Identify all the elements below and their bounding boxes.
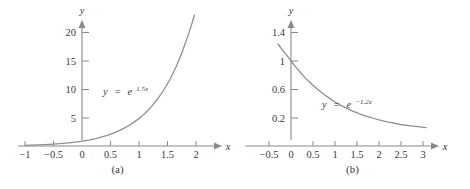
y-tick-label-a-1: 10 [66, 84, 77, 95]
x-tick-label-b-1: 0 [288, 149, 293, 160]
x-tick-label-b-5: 2 [376, 149, 381, 160]
x-axis-label-a: x [225, 141, 231, 152]
y-tick-label-b-2: 1 [280, 56, 285, 67]
y-axis-label-a: y [79, 5, 85, 16]
equation-text-a: y = e 1.5x [102, 81, 149, 98]
x-tick-label-b-7: 3 [420, 149, 425, 160]
y-tick-label-a-2: 15 [66, 56, 77, 67]
x-tick-label-a-5: 1.5 [161, 149, 174, 160]
x-tick-label-a-6: 2 [193, 149, 198, 160]
x-tick-label-a-1: −0.5 [44, 149, 63, 160]
equation-operator-b: = [334, 99, 340, 110]
equation-text-b: y = e −1.2x [321, 94, 373, 111]
panel-b: −0.5 0 0.5 1 1.5 2 2.5 3 0.2 0.6 1 1.4 x… [235, 0, 470, 189]
equation-base-a: e [128, 86, 133, 97]
x-axis-arrow-a [214, 143, 222, 150]
equation-label-b: y = e −1.2x [321, 94, 373, 111]
x-tick-label-a-4: 1 [136, 149, 141, 160]
x-tick-label-a-2: 0 [79, 149, 84, 160]
x-axis-label-b: x [442, 141, 448, 152]
x-tick-label-b-2: 0.5 [306, 149, 319, 160]
x-tick-label-b-6: 2.5 [394, 149, 407, 160]
y-axis-arrow-b [288, 20, 295, 28]
figure-container: −1 −0.5 0 0.5 1 1.5 2 5 10 15 20 x y y =… [0, 0, 470, 189]
equation-exponent-a: 1.5x [136, 85, 149, 93]
equation-lhs-b: y [321, 99, 327, 110]
x-axis-arrow-b [431, 143, 439, 150]
equation-operator-a: = [115, 86, 121, 97]
plot-b: −0.5 0 0.5 1 1.5 2 2.5 3 0.2 0.6 1 1.4 x… [235, 0, 470, 170]
y-axis-arrow-a [79, 20, 86, 28]
equation-lhs-a: y [102, 86, 108, 97]
plot-a: −1 −0.5 0 0.5 1 1.5 2 5 10 15 20 x y y =… [0, 0, 235, 170]
x-tick-label-b-4: 1.5 [350, 149, 363, 160]
x-tick-label-b-0: −0.5 [259, 149, 278, 160]
caption-b: (b) [235, 163, 470, 175]
y-tick-label-b-0: 0.2 [272, 113, 285, 124]
y-axis-label-b: y [288, 5, 294, 16]
y-tick-label-b-3: 1.4 [272, 27, 286, 38]
y-tick-label-b-1: 0.6 [272, 84, 285, 95]
y-tick-label-a-0: 5 [71, 113, 76, 124]
x-tick-label-a-3: 0.5 [104, 149, 117, 160]
equation-exponent-b: −1.2x [355, 98, 372, 106]
caption-a: (a) [0, 163, 235, 175]
y-tick-label-a-3: 20 [66, 27, 77, 38]
x-tick-label-a-0: −1 [19, 149, 30, 160]
panel-a: −1 −0.5 0 0.5 1 1.5 2 5 10 15 20 x y y =… [0, 0, 235, 189]
curve-b [278, 44, 426, 128]
equation-label-a: y = e 1.5x [102, 81, 149, 98]
equation-base-b: e [347, 99, 352, 110]
x-tick-label-b-3: 1 [332, 149, 337, 160]
